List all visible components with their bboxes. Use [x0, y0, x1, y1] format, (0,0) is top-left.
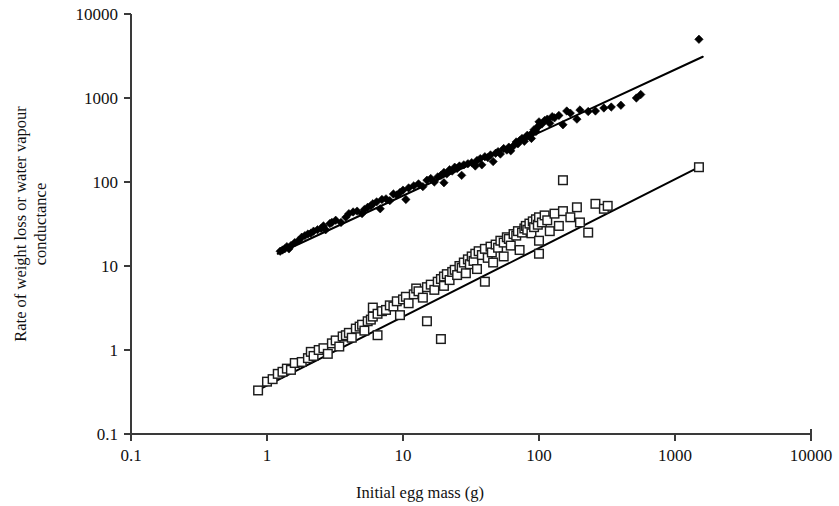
data-point-square — [535, 249, 544, 258]
data-point-square — [499, 252, 508, 261]
data-point-square — [437, 335, 446, 344]
data-point-diamond — [617, 101, 625, 109]
data-point-square — [591, 200, 600, 209]
y-tick-label: 0.1 — [97, 425, 118, 444]
data-point-diamond — [457, 171, 465, 179]
x-tick-label: 10000 — [790, 446, 833, 465]
data-point-square — [535, 236, 544, 245]
data-point-square — [462, 269, 471, 278]
scatter-plot: 0.1110100100010000 0.1110100100010000 In… — [0, 0, 839, 506]
axes — [124, 14, 811, 441]
data-point-square — [489, 258, 498, 267]
data-point-square — [584, 228, 593, 237]
data-point-square — [559, 176, 568, 185]
data-point-square — [404, 299, 413, 308]
data-point-square — [515, 246, 524, 255]
data-point-diamond — [600, 104, 608, 112]
data-point-diamond — [695, 35, 703, 43]
data-point-square — [576, 218, 585, 227]
figure-container: 0.1110100100010000 0.1110100100010000 In… — [0, 0, 839, 506]
y-axis-title-line-1: Rate of weight loss or water vapour — [11, 106, 30, 342]
data-point-square — [423, 317, 432, 326]
y-axis-title-line-2: conductance — [31, 183, 50, 265]
data-point-square — [506, 241, 515, 250]
data-point-square — [360, 326, 369, 335]
x-tick-label: 0.1 — [120, 446, 141, 465]
data-point-square — [603, 202, 612, 211]
data-point-square — [419, 293, 428, 302]
data-point-square — [347, 333, 356, 342]
data-point-square — [573, 203, 582, 212]
x-tick-label: 1000 — [658, 446, 692, 465]
data-point-square — [373, 331, 382, 340]
x-axis-tick-labels: 0.1110100100010000 — [120, 446, 832, 465]
series-rate-of-weight-loss-points — [276, 35, 703, 255]
data-point-square — [254, 386, 263, 395]
data-point-square — [396, 311, 405, 320]
data-point-square — [335, 342, 344, 351]
y-tick-label: 1000 — [84, 89, 118, 108]
data-point-square — [566, 213, 575, 222]
data-point-square — [695, 163, 704, 172]
y-tick-label: 10000 — [76, 5, 119, 24]
x-tick-label: 1 — [263, 446, 272, 465]
x-tick-label: 100 — [526, 446, 552, 465]
y-tick-label: 100 — [93, 173, 119, 192]
data-point-diamond — [607, 103, 615, 111]
data-point-square — [430, 286, 439, 295]
y-axis-tick-labels: 0.1110100100010000 — [76, 5, 119, 444]
data-point-square — [473, 265, 482, 274]
y-tick-label: 10 — [101, 257, 118, 276]
y-tick-label: 1 — [110, 341, 119, 360]
data-point-square — [481, 277, 490, 286]
x-axis-title: Initial egg mass (g) — [356, 483, 484, 502]
data-point-square — [555, 222, 564, 231]
x-tick-label: 10 — [395, 446, 412, 465]
data-point-square — [545, 227, 554, 236]
data-point-square — [550, 209, 559, 218]
data-point-square — [324, 350, 333, 359]
